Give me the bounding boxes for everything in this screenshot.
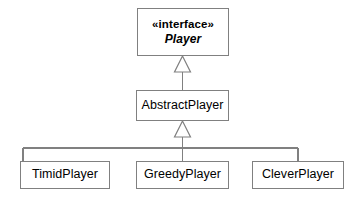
class-node-player[interactable]: «interface» Player [137, 8, 229, 56]
generalization-subclasses-to-abstractplayer [23, 121, 298, 161]
class-node-greedyplayer[interactable]: GreedyPlayer [136, 161, 229, 189]
class-node-abstractplayer[interactable]: AbstractPlayer [136, 90, 229, 121]
hollow-triangle-arrowhead [175, 56, 191, 72]
uml-class-diagram: «interface» Player AbstractPlayer TimidP… [0, 0, 357, 199]
class-node-timidplayer[interactable]: TimidPlayer [20, 161, 110, 189]
class-name-label: CleverPlayer [262, 167, 334, 183]
class-name-label: AbstractPlayer [142, 98, 224, 114]
hollow-triangle-arrowhead [175, 121, 191, 137]
class-name-label: GreedyPlayer [144, 167, 221, 183]
class-stereotype-label: «interface» [152, 17, 214, 31]
class-node-cleverplayer[interactable]: CleverPlayer [252, 161, 344, 189]
class-name-label: Player [165, 32, 202, 47]
class-name-label: TimidPlayer [32, 167, 98, 183]
generalization-abstractplayer-to-player [175, 56, 191, 90]
